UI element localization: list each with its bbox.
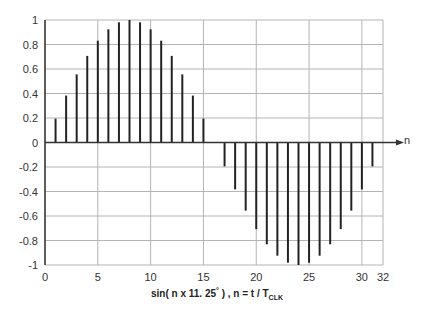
svg-text:32: 32	[377, 271, 389, 283]
svg-text:-0.4: -0.4	[19, 186, 38, 198]
axes	[45, 20, 404, 265]
svg-text:5: 5	[95, 271, 101, 283]
axis-arrow-label: n	[404, 134, 410, 146]
svg-text:1: 1	[32, 14, 38, 26]
svg-text:0.6: 0.6	[23, 63, 38, 75]
svg-text:10: 10	[145, 271, 157, 283]
svg-text:20: 20	[250, 271, 262, 283]
x-axis-caption: sin( n x 11. 25° ) , n = t / TCLK	[0, 287, 434, 301]
caption-subscript: CLK	[269, 294, 283, 301]
svg-text:0.2: 0.2	[23, 112, 38, 124]
svg-text:-0.8: -0.8	[19, 235, 38, 247]
svg-text:-1: -1	[28, 259, 38, 271]
svg-text:15: 15	[197, 271, 209, 283]
x-axis-ticks: 05101520253032	[42, 271, 389, 283]
svg-text:30: 30	[356, 271, 368, 283]
y-axis-ticks: 10.80.60.40.20-0.2-0.4-0.6-0.8-1	[19, 14, 38, 271]
svg-text:0: 0	[32, 137, 38, 149]
svg-text:0.4: 0.4	[23, 88, 38, 100]
svg-text:0: 0	[42, 271, 48, 283]
svg-text:-0.6: -0.6	[19, 210, 38, 222]
svg-text:25: 25	[303, 271, 315, 283]
caption-prefix: sin( n x 11. 25	[151, 288, 216, 299]
svg-text:0.8: 0.8	[23, 39, 38, 51]
stem-chart: 10.80.60.40.20-0.2-0.4-0.6-0.8-1 0510152…	[0, 0, 434, 318]
caption-middle: ) , n = t / T	[219, 288, 269, 299]
svg-text:-0.2: -0.2	[19, 161, 38, 173]
